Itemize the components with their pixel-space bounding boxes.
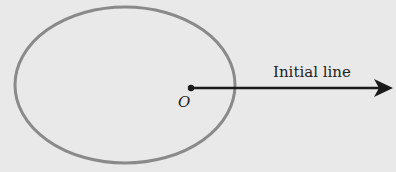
- polar-diagram: Initial line O: [0, 0, 396, 172]
- pole-point: [188, 85, 194, 91]
- initial-line-label: Initial line: [273, 63, 351, 81]
- origin-label: O: [178, 93, 190, 111]
